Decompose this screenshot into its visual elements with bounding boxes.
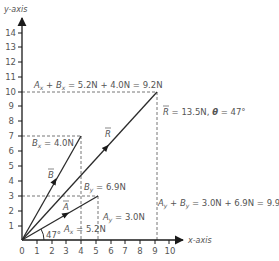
y-tick-8: 8 (9, 116, 14, 126)
svg-text:A: A (62, 202, 69, 212)
angle-arc (41, 229, 44, 240)
svg-text:R: R (105, 129, 111, 139)
y-tick-12: 12 (5, 57, 16, 67)
ay-label: Ay = 3.0N (102, 212, 145, 224)
y-tick-labels: 1 2 3 4 5 6 7 8 9 10 11 12 13 14 (5, 28, 16, 231)
y-tick-3: 3 (9, 191, 14, 201)
y-tick-5: 5 (9, 161, 14, 171)
y-tick-11: 11 (5, 72, 16, 82)
vector-r-label: R (105, 128, 111, 139)
vector-b-label: B (48, 169, 54, 180)
vector-addition-diagram: 1 2 3 4 5 6 7 8 9 10 11 12 13 14 0 1 2 3… (0, 0, 279, 261)
y-tick-14: 14 (5, 28, 16, 38)
y-tick-13: 13 (5, 42, 16, 52)
x-tick-10: 10 (165, 246, 176, 256)
ax-label: Ax = 5.2N (63, 224, 106, 235)
x-tick-6: 6 (108, 246, 113, 256)
x-tick-5: 5 (93, 246, 98, 256)
x-tick-2: 2 (49, 246, 54, 256)
bx-label: Bx = 4.0N (32, 138, 74, 149)
svg-text:B: B (48, 170, 54, 180)
y-tick-4: 4 (9, 176, 14, 186)
angle-label: 47° (46, 230, 61, 240)
x-tick-0: 0 (19, 246, 24, 256)
sum-x-equation: Ax + Bx = 5.2N + 4.0N = 9.2N (33, 80, 163, 91)
y-tick-9: 9 (9, 101, 14, 111)
y-tick-7: 7 (9, 131, 14, 141)
by-label: By = 6.9N (84, 182, 126, 194)
x-tick-8: 8 (137, 246, 142, 256)
y-tick-6: 6 (9, 146, 14, 156)
x-tick-3: 3 (63, 246, 68, 256)
vector-a-label: A (62, 201, 69, 212)
y-tick-2: 2 (9, 206, 14, 216)
y-tick-1: 1 (9, 221, 14, 231)
y-axis-label: y-axis (3, 5, 27, 14)
x-tick-labels: 0 1 2 3 4 5 6 7 8 9 10 (19, 246, 175, 256)
x-tick-4: 4 (78, 246, 83, 256)
x-tick-9: 9 (152, 246, 157, 256)
svg-text:R = 13.5N, θ = 47°: R = 13.5N, θ = 47° (163, 107, 246, 117)
vector-b (22, 136, 81, 240)
x-axis-label: x-axis (187, 236, 212, 245)
y-tick-10: 10 (5, 87, 16, 97)
x-tick-7: 7 (122, 246, 127, 256)
sum-y-equation: Ay + By = 3.0N + 6.9N = 9.9N (157, 198, 279, 210)
x-tick-1: 1 (34, 246, 39, 256)
resultant-equation: R = 13.5N, θ = 47° (163, 106, 246, 117)
